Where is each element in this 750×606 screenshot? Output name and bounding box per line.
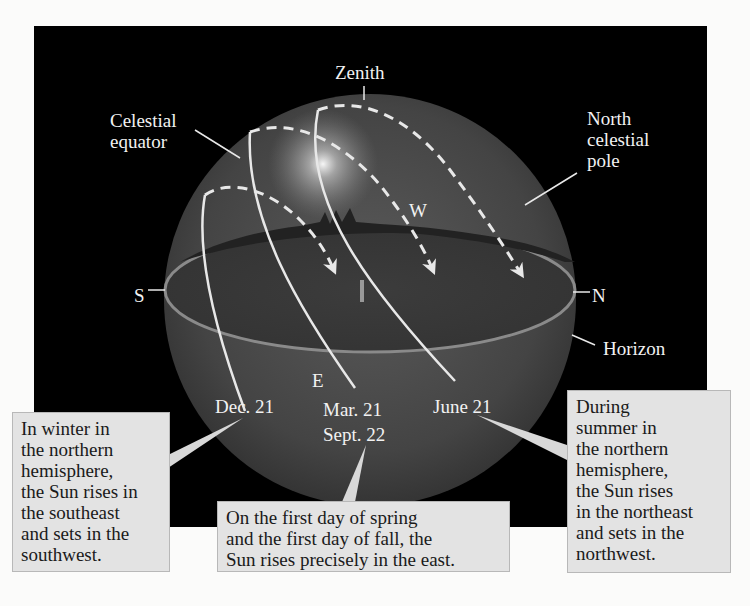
observer-figure [360, 280, 364, 302]
june21-label: June 21 [433, 396, 492, 417]
summer-callout: During summer in the northern hemisphere… [567, 390, 731, 573]
celestial-equator-label: Celestial equator [110, 110, 176, 152]
sept22-label: Sept. 22 [323, 424, 385, 445]
dec21-label: Dec. 21 [215, 396, 274, 417]
winter-callout: In winter in the northern hemisphere, th… [12, 412, 170, 572]
north-label: N [592, 285, 606, 306]
horizon-label: Horizon [603, 338, 665, 359]
east-label: E [312, 370, 324, 391]
south-label: S [134, 285, 145, 306]
mar21-label: Mar. 21 [323, 399, 382, 420]
north-celestial-pole-label: North celestial pole [587, 108, 649, 171]
equinox-callout: On the first day of spring and the first… [217, 501, 510, 572]
zenith-label: Zenith [335, 62, 385, 83]
celestial-sphere-diagram: Zenith Celestial equator North celestial… [0, 0, 750, 606]
west-label: W [409, 200, 427, 221]
